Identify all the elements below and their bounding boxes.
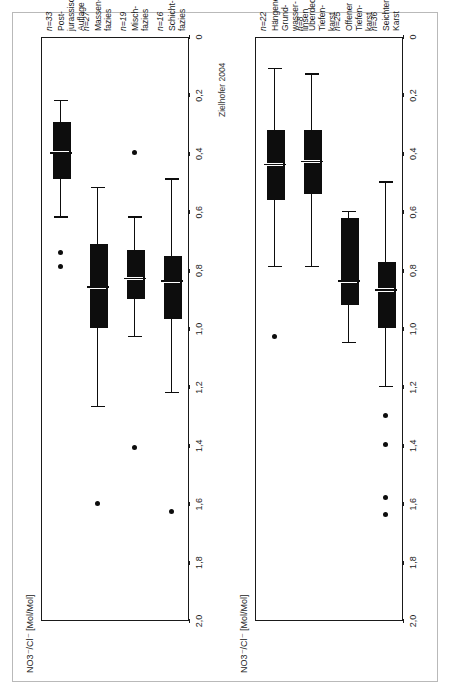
category-label: Schicht- fazies [167, 0, 187, 31]
plot-area-top [42, 38, 188, 620]
axis-tick-mark [403, 385, 404, 389]
axis-title-bottom: NO3⁻/Cl⁻ [Mol/Mol] [239, 594, 249, 673]
axis-tick-label: 0 [194, 23, 204, 51]
axis-tick-mark [189, 444, 190, 448]
rotated-figure-stage: NO3⁻/Cl⁻ [Mol/Mol] Grundwasserüberdeckun… [17, 17, 433, 677]
axis-tick-mark [403, 444, 404, 448]
axis-tick-mark [189, 93, 190, 97]
axis-tick-mark [189, 619, 190, 623]
axis-tick-label: 1,0 [408, 315, 418, 343]
axis-tick-label: 2,0 [408, 607, 418, 635]
category-count: n=33 [44, 0, 54, 31]
axis-tick-label: 1,4 [408, 432, 418, 460]
axis-tick-mark [189, 35, 190, 39]
axis-tick-label: 1,2 [194, 373, 204, 401]
axis-tick-mark [403, 35, 404, 39]
scanned-figure-page: NO3⁻/Cl⁻ [Mol/Mol] Grundwasserüberdeckun… [0, 0, 452, 695]
axis-tick-mark [403, 327, 404, 331]
whisker-cap [54, 216, 68, 217]
axis-tick-label: 0,4 [408, 140, 418, 168]
category-count: n=19 [118, 0, 128, 31]
whisker-cap [54, 100, 68, 101]
axis-tick-mark [189, 152, 190, 156]
axis-tick-mark [189, 385, 190, 389]
panel-grundwasserueberdeckung: NO3⁻/Cl⁻ [Mol/Mol] Grundwasserüberdeckun… [19, 17, 215, 677]
axis-tick-mark [403, 502, 404, 506]
outlier-point [272, 334, 277, 339]
axis-tick-label: 0,8 [194, 257, 204, 285]
axis-tick-mark [403, 619, 404, 623]
axis-tick-label: 1,0 [194, 315, 204, 343]
axis-tick-label: 1,6 [408, 490, 418, 518]
category-label: Seichter Karst [381, 0, 401, 31]
plot-area-bottom [256, 38, 402, 620]
median-line [50, 152, 72, 154]
axis-tick-mark [403, 93, 404, 97]
axis-title-top: NO3⁻/Cl⁻ [Mol/Mol] [25, 594, 35, 673]
axis-tick-label: 0,8 [408, 257, 418, 285]
outlier-point [58, 250, 63, 255]
axis-tick-mark [403, 269, 404, 273]
axis-tick-mark [403, 152, 404, 156]
figure-content: NO3⁻/Cl⁻ [Mol/Mol] Grundwasserüberdeckun… [17, 17, 433, 677]
axis-tick-label: 1,8 [194, 549, 204, 577]
category-label: Post- jurassische Auflage [56, 0, 86, 31]
category-label: Misch- fazies [130, 0, 150, 31]
category-label: Offener Tiefen- karst [344, 0, 374, 31]
median-line [264, 164, 286, 166]
axis-tick-label: 0,6 [408, 198, 418, 226]
outlier-point [58, 264, 63, 269]
axis-tick-mark [403, 561, 404, 565]
figure-credit: Zielhofer 2004 [217, 63, 227, 117]
category-label: Hängende Grund- wasser- linsen [270, 0, 310, 31]
category-label: Überdeckter Tiefen- karst [307, 0, 337, 31]
axis-tick-label: 1,6 [194, 490, 204, 518]
category-label: Massen- fazies [93, 0, 113, 31]
axis-tick-label: 0,2 [194, 81, 204, 109]
axis-tick-label: 0,4 [194, 140, 204, 168]
axis-tick-mark [189, 561, 190, 565]
category-count: n=16 [155, 0, 165, 31]
whisker-cap [268, 266, 282, 267]
panel-quelltyp: NO3⁻/Cl⁻ [Mol/Mol] Quelltyp 2,01,81,61,4… [233, 17, 429, 677]
whisker-cap [268, 68, 282, 69]
axis-tick-label: 0,2 [408, 81, 418, 109]
axis-tick-mark [189, 327, 190, 331]
axis-tick-label: 1,8 [408, 549, 418, 577]
category-count: n=22 [258, 0, 268, 31]
plot-frame-bottom [255, 37, 403, 621]
boxplot-group [256, 36, 402, 620]
axis-tick-label: 0,6 [194, 198, 204, 226]
axis-tick-mark [189, 502, 190, 506]
axis-tick-label: 1,4 [194, 432, 204, 460]
axis-tick-label: 0 [408, 23, 418, 51]
axis-tick-mark [403, 210, 404, 214]
axis-tick-label: 2,0 [194, 607, 204, 635]
plot-frame-top [41, 37, 189, 621]
boxplot-group [42, 36, 188, 620]
figure-outer-border: NO3⁻/Cl⁻ [Mol/Mol] Grundwasserüberdeckun… [12, 12, 438, 682]
axis-tick-label: 1,2 [408, 373, 418, 401]
axis-tick-mark [189, 269, 190, 273]
axis-tick-mark [189, 210, 190, 214]
